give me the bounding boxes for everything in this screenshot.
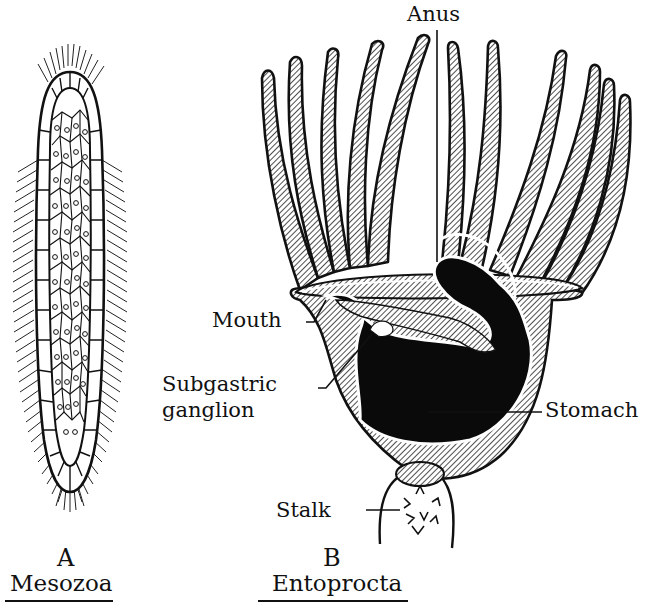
label-subgastric-line2: ganglion	[162, 400, 255, 421]
mesozoa-figure	[13, 44, 127, 512]
label-subgastric-line1: Subgastric	[162, 374, 277, 395]
panel-b-name: Entoprocta	[272, 572, 402, 595]
panel-a-name: Mesozoa	[10, 572, 113, 595]
panel-b-underline	[258, 600, 408, 602]
panel-a-underline	[5, 600, 113, 602]
label-stalk: Stalk	[276, 500, 331, 521]
panel-b-letter: B	[323, 546, 341, 570]
entoprocta-figure	[262, 30, 630, 548]
label-stomach: Stomach	[545, 400, 638, 421]
label-anus: Anus	[407, 4, 460, 25]
panel-a-letter: A	[57, 546, 74, 570]
stalk	[380, 462, 454, 548]
label-mouth: Mouth	[212, 310, 282, 331]
